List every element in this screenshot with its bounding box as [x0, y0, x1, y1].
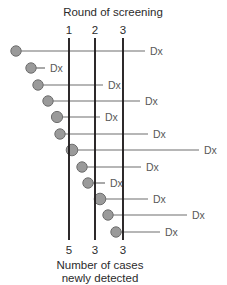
- round-labels-top: 1 2 3: [66, 24, 126, 36]
- disease-onset-dot: [33, 80, 43, 90]
- case-row: Dx: [43, 95, 159, 107]
- case-row: Dx: [77, 161, 160, 173]
- case-row: Dx: [33, 79, 122, 91]
- round-label-top-2: 2: [92, 24, 98, 36]
- caption-line-2: newly detected: [62, 272, 139, 284]
- dx-label: Dx: [50, 62, 64, 74]
- dx-label: Dx: [204, 144, 218, 156]
- case-row: Dx: [94, 193, 166, 205]
- dx-label: Dx: [153, 128, 167, 140]
- disease-onset-dot: [26, 63, 36, 73]
- dx-label: Dx: [146, 161, 160, 173]
- figure-title: Round of screening: [63, 6, 163, 18]
- dx-label: Dx: [165, 226, 179, 238]
- dx-label: Dx: [145, 95, 159, 107]
- disease-onset-dot: [83, 178, 93, 188]
- dx-label: Dx: [110, 177, 124, 189]
- case-rows: Dx Dx Dx Dx: [11, 45, 218, 238]
- round-count-1: 5: [66, 244, 72, 256]
- screening-lead-time-diagram: Round of screening 1 2 3 Dx Dx: [0, 0, 227, 285]
- disease-onset-dot: [51, 111, 62, 122]
- case-row: Dx: [26, 62, 64, 74]
- dx-label: Dx: [105, 111, 119, 123]
- case-row: Dx: [111, 226, 179, 238]
- disease-onset-dot: [77, 162, 87, 172]
- disease-onset-dot: [43, 96, 53, 106]
- case-row: Dx: [11, 45, 164, 57]
- case-row: Dx: [51, 111, 118, 123]
- dx-label: Dx: [192, 209, 206, 221]
- disease-onset-dot: [66, 144, 78, 156]
- dx-label: Dx: [153, 193, 167, 205]
- caption-line-1: Number of cases: [57, 259, 144, 271]
- round-label-top-3: 3: [120, 24, 126, 36]
- dx-label: Dx: [108, 79, 122, 91]
- disease-onset-dot: [55, 129, 65, 139]
- disease-onset-dot: [103, 210, 113, 220]
- round-counts-bottom: 5 3 3: [66, 244, 126, 256]
- round-count-2: 3: [92, 244, 98, 256]
- disease-onset-dot: [111, 227, 121, 237]
- case-row: Dx: [83, 177, 124, 189]
- case-row: Dx: [103, 209, 206, 221]
- case-row: Dx: [55, 128, 167, 140]
- case-row: Dx: [66, 144, 217, 156]
- disease-onset-dot: [11, 46, 21, 56]
- round-count-3: 3: [120, 244, 126, 256]
- dx-label: Dx: [150, 45, 164, 57]
- screening-round-axes: [69, 38, 123, 240]
- round-label-top-1: 1: [66, 24, 72, 36]
